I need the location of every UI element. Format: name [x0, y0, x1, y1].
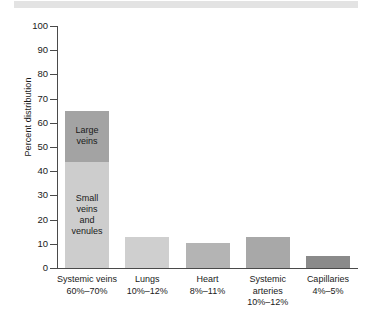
bar	[125, 237, 169, 268]
x-category-name: Systemic arteries	[238, 274, 298, 297]
bar-group	[186, 26, 230, 268]
y-tick-label: 10	[2, 239, 48, 249]
bar-group	[246, 26, 290, 268]
x-category-label: Heart8%–11%	[177, 274, 237, 297]
x-category-range: 10%–12%	[117, 286, 177, 298]
y-tick-label: 70	[2, 94, 48, 104]
x-category-name: Systemic veins	[57, 274, 117, 286]
y-tick-label: 60	[2, 118, 48, 128]
y-tick-label: 100	[2, 21, 48, 31]
bar-group	[125, 26, 169, 268]
y-tick-label: 30	[2, 190, 48, 200]
bar-segment	[246, 237, 290, 268]
plot-area: LargeveinsSmallveinsandvenules	[57, 26, 358, 268]
bar-segment: Smallveinsandvenules	[65, 162, 109, 268]
bar-segment: Largeveins	[65, 111, 109, 162]
bar-group: LargeveinsSmallveinsandvenules	[65, 26, 109, 268]
x-category-label: Systemic arteries10%–12%	[238, 274, 298, 309]
bar-segment-label: Smallveinsandvenules	[65, 193, 109, 237]
y-tick-label: 20	[2, 215, 48, 225]
bar-segment-label: Largeveins	[65, 125, 109, 147]
x-axis-line	[57, 268, 358, 269]
x-category-name: Lungs	[117, 274, 177, 286]
x-category-label: Lungs10%–12%	[117, 274, 177, 297]
x-category-range: 60%–70%	[57, 286, 117, 298]
bar	[306, 256, 350, 268]
x-category-label: Systemic veins60%–70%	[57, 274, 117, 297]
x-category-label: Capillaries4%–5%	[298, 274, 358, 297]
y-tick-label: 80	[2, 69, 48, 79]
y-tick-label: 50	[2, 142, 48, 152]
percent-distribution-bar-chart: Percent distribution 1009080706050403020…	[0, 0, 372, 321]
y-tick-mark	[50, 268, 58, 269]
bar-segment	[125, 237, 169, 268]
x-category-name: Capillaries	[298, 274, 358, 286]
bar-segment	[306, 256, 350, 268]
bar-group	[306, 26, 350, 268]
bar: LargeveinsSmallveinsandvenules	[65, 111, 109, 268]
x-category-range: 4%–5%	[298, 286, 358, 298]
bar-segment	[186, 243, 230, 268]
x-category-range: 8%–11%	[177, 286, 237, 298]
bar	[186, 243, 230, 268]
bar	[246, 237, 290, 268]
y-tick-label: 0	[2, 263, 48, 273]
y-tick-label: 90	[2, 45, 48, 55]
x-category-range: 10%–12%	[238, 297, 298, 309]
x-category-name: Heart	[177, 274, 237, 286]
y-tick-label: 40	[2, 166, 48, 176]
